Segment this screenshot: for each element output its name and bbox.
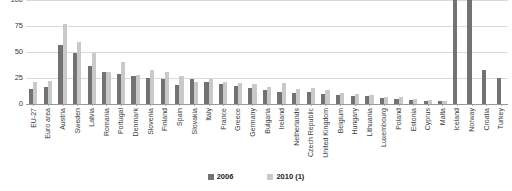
x-axis-label: Czech Republic [307, 108, 314, 157]
bar-group [187, 0, 202, 104]
plot-area: 0255075100 [0, 0, 512, 105]
x-axis-label-cell: Hungary [347, 106, 362, 164]
x-axis-label-cell: Ireland [274, 106, 289, 164]
x-axis-label-cell: Turkey [494, 106, 509, 164]
bar-2010 [121, 62, 125, 104]
x-axis-label: Bulgaria [264, 108, 271, 134]
bar-group [245, 0, 260, 104]
bar-2010 [63, 24, 67, 104]
bar-group [333, 0, 348, 104]
x-axis-label-cell: Norway [464, 106, 479, 164]
x-axis-label-cell: Romania [99, 106, 114, 164]
bar-2010 [194, 82, 198, 104]
bar-group [99, 0, 114, 104]
bar-group [406, 0, 421, 104]
bar-group [420, 0, 435, 104]
bar-group [231, 0, 246, 104]
bar-group [479, 0, 494, 104]
bar-group [157, 0, 172, 104]
bar-group [114, 0, 129, 104]
bar-2010 [282, 83, 286, 104]
x-axis-label: Portugal [117, 108, 124, 134]
x-axis-label-cell: Austria [55, 106, 70, 164]
bar-group [391, 0, 406, 104]
x-axis-label: Belgium [337, 108, 344, 133]
bar-2006 [497, 78, 501, 104]
x-axis-label-cell: Cyprus [420, 106, 435, 164]
x-axis-label: Romania [103, 108, 110, 136]
x-axis-label: Iceland [453, 108, 460, 131]
x-axis-label: United Kingdom [322, 108, 329, 158]
x-axis-label: EU-27 [30, 108, 37, 128]
x-axis-label-cell: Spain [172, 106, 187, 164]
bar-group [26, 0, 41, 104]
bar-group [494, 0, 509, 104]
x-axis-label: Ireland [278, 108, 285, 129]
x-axis-label: Slovenia [147, 108, 154, 135]
bar-2010 [48, 81, 52, 104]
x-axis-label: Netherlands [293, 108, 300, 146]
legend-item[interactable]: 2010 (1) [267, 173, 304, 181]
bar-2010 [209, 79, 213, 104]
grid-area [26, 0, 508, 105]
x-axis-label-cell: Sweden [70, 106, 85, 164]
bar-2010 [33, 82, 37, 104]
x-axis-label: Slovakia [191, 108, 198, 134]
x-axis-line [26, 104, 508, 105]
x-axis-label-cell: Czech Republic [304, 106, 319, 164]
bar-group [172, 0, 187, 104]
x-axis-label-cell: Denmark [128, 106, 143, 164]
x-axis-label: Sweden [74, 108, 81, 133]
x-axis-label-cell: Estonia [406, 106, 421, 164]
x-axis-label-cell: Croatia [479, 106, 494, 164]
y-axis-tick-label: 0 [19, 100, 23, 108]
x-axis-label: Denmark [132, 108, 139, 136]
x-axis-label: Malta [439, 108, 446, 125]
bar-group [128, 0, 143, 104]
x-axis-labels: EU-27Euro areaAustriaSwedenLatviaRomania… [26, 106, 508, 164]
bar-2010 [179, 76, 183, 104]
bar-group [347, 0, 362, 104]
bar-2006 [467, 0, 471, 104]
y-axis-tick-label: 75 [15, 22, 23, 30]
bar-2010 [252, 84, 256, 104]
x-axis-label: Estonia [410, 108, 417, 131]
bar-group [304, 0, 319, 104]
bar-group [84, 0, 99, 104]
x-axis-label-cell: Iceland [450, 106, 465, 164]
x-axis-label: Italy [205, 108, 212, 121]
x-axis-label: Euro area [44, 108, 51, 139]
bar-2006 [453, 0, 457, 104]
x-axis-label: Lithuania [366, 108, 373, 136]
x-axis-label: Turkey [497, 108, 504, 129]
legend-label: 2010 (1) [276, 173, 304, 181]
x-axis-label-cell: Netherlands [289, 106, 304, 164]
x-axis-label: France [220, 108, 227, 130]
x-axis-label-cell: Germany [245, 106, 260, 164]
x-axis-label: Finland [161, 108, 168, 131]
x-axis-label: Croatia [483, 108, 490, 131]
x-axis-label-cell: Portugal [114, 106, 129, 164]
bar-2010 [369, 95, 373, 104]
bar-2010 [223, 82, 227, 104]
x-axis-label-cell: France [216, 106, 231, 164]
bar-group [377, 0, 392, 104]
x-axis-label-cell: Bulgaria [260, 106, 275, 164]
x-axis-label: Latvia [88, 108, 95, 127]
bar-2010 [399, 97, 403, 104]
x-axis-label-cell: Greece [231, 106, 246, 164]
y-axis-tick-label: 100 [10, 0, 23, 4]
bar-group [143, 0, 158, 104]
x-axis-label: Germany [249, 108, 256, 137]
x-axis-label-cell: Euro area [41, 106, 56, 164]
bar-group [260, 0, 275, 104]
bar-2006 [482, 70, 486, 104]
x-axis-label-cell: Poland [391, 106, 406, 164]
x-axis-label-cell: Belgium [333, 106, 348, 164]
legend-item[interactable]: 2006 [208, 173, 234, 181]
x-axis-label: Luxembourg [380, 108, 387, 147]
bar-2010 [165, 72, 169, 104]
bar-2010 [267, 87, 271, 104]
x-axis-label-cell: Italy [201, 106, 216, 164]
x-axis-label-cell: Lithuania [362, 106, 377, 164]
